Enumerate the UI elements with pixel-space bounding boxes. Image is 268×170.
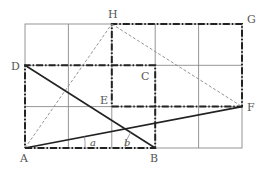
point-label-C: C	[141, 70, 149, 83]
point-label-A: A	[19, 152, 29, 165]
segment-AF	[25, 107, 242, 148]
point-label-E: E	[100, 94, 108, 107]
angle-label-a: a	[90, 137, 96, 148]
point-label-B: B	[150, 152, 158, 165]
angle-a-arc	[85, 137, 86, 148]
point-label-D: D	[11, 60, 20, 73]
geometry-figure: A B C D E F G H a b	[0, 0, 268, 170]
point-label-G: G	[247, 13, 256, 26]
point-label-H: H	[108, 8, 118, 21]
angle-label-b: b	[124, 137, 130, 148]
point-label-F: F	[247, 101, 255, 114]
